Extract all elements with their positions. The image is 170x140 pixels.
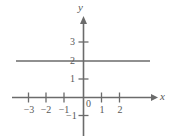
x-axis bbox=[12, 94, 158, 101]
x-tick-label--3: −3 bbox=[24, 105, 35, 115]
x-tick-label-1: 1 bbox=[100, 105, 105, 115]
y-axis-label: y bbox=[78, 2, 83, 13]
coordinate-plane-svg bbox=[0, 0, 170, 140]
y-axis-arrowhead bbox=[80, 16, 87, 24]
origin-label: 0 bbox=[86, 99, 91, 109]
y-tick-label-1: 1 bbox=[70, 74, 75, 84]
x-tick-label--2: −2 bbox=[41, 105, 52, 115]
graph-figure: −3 −2 −1 1 2 3 2 1 −1 0 y x bbox=[0, 0, 170, 140]
y-tick-label--1: −1 bbox=[66, 111, 77, 121]
x-axis-label: x bbox=[160, 91, 165, 102]
y-tick-label-2: 2 bbox=[70, 56, 75, 66]
y-axis bbox=[80, 16, 87, 136]
x-tick-label-2: 2 bbox=[118, 105, 123, 115]
x-axis-arrowhead bbox=[151, 94, 158, 101]
y-tick-label-3: 3 bbox=[70, 37, 75, 47]
